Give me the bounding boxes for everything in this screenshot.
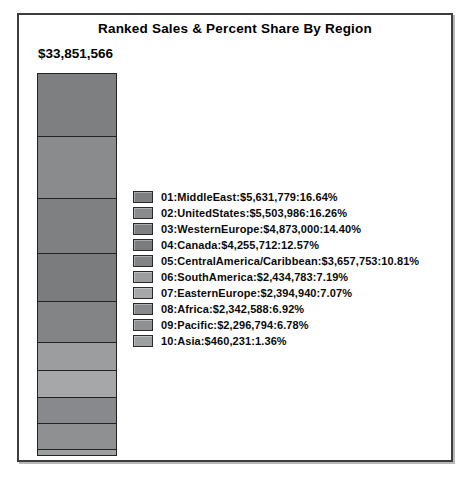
legend-label: 01:MiddleEast:$5,631,779:16.64% [161, 191, 338, 203]
legend-swatch-icon [133, 223, 153, 235]
bar-segment-06 [38, 343, 116, 370]
legend-label: 05:CentralAmerica/Caribbean:$3,657,753:1… [161, 255, 419, 267]
legend-swatch-icon [133, 255, 153, 267]
bar-segment-03 [38, 199, 116, 254]
legend-row-10: 10:Asia:$460,231:1.36% [133, 333, 419, 349]
legend-label: 08:Africa:$2,342,588:6.92% [161, 303, 304, 315]
legend-swatch-icon [133, 239, 153, 251]
legend-row-08: 08:Africa:$2,342,588:6.92% [133, 301, 419, 317]
legend-label: 10:Asia:$460,231:1.36% [161, 335, 287, 347]
bar-segment-09 [38, 424, 116, 450]
bar-segment-10 [38, 450, 116, 455]
legend-swatch-icon [133, 191, 153, 203]
legend-row-06: 06:SouthAmerica:$2,434,783:7.19% [133, 269, 419, 285]
legend-label: 04:Canada:$4,255,712:12.57% [161, 239, 319, 251]
legend-row-09: 09:Pacific:$2,296,794:6.78% [133, 317, 419, 333]
bar-segment-02 [38, 137, 116, 199]
bar-segment-07 [38, 371, 116, 398]
legend-swatch-icon [133, 335, 153, 347]
legend-row-05: 05:CentralAmerica/Caribbean:$3,657,753:1… [133, 253, 419, 269]
legend-swatch-icon [133, 207, 153, 219]
legend-swatch-icon [133, 303, 153, 315]
legend-label: 02:UnitedStates:$5,503,986:16.26% [161, 207, 347, 219]
legend-label: 07:EasternEurope:$2,394,940:7.07% [161, 287, 352, 299]
legend: 01:MiddleEast:$5,631,779:16.64%02:United… [133, 189, 419, 349]
legend-row-04: 04:Canada:$4,255,712:12.57% [133, 237, 419, 253]
legend-label: 06:SouthAmerica:$2,434,783:7.19% [161, 271, 348, 283]
legend-row-01: 01:MiddleEast:$5,631,779:16.64% [133, 189, 419, 205]
legend-swatch-icon [133, 287, 153, 299]
bar-segment-08 [38, 398, 116, 424]
chart-image: Ranked Sales & Percent Share By Region $… [0, 0, 467, 481]
legend-row-02: 02:UnitedStates:$5,503,986:16.26% [133, 205, 419, 221]
stacked-bar [37, 73, 117, 456]
bar-total-label: $33,851,566 [38, 46, 113, 61]
chart-title: Ranked Sales & Percent Share By Region [17, 21, 453, 36]
legend-swatch-icon [133, 271, 153, 283]
bar-segment-01 [38, 74, 116, 137]
legend-swatch-icon [133, 319, 153, 331]
legend-row-03: 03:WesternEurope:$4,873,000:14.40% [133, 221, 419, 237]
bar-segment-04 [38, 254, 116, 302]
bar-segment-05 [38, 302, 116, 343]
legend-label: 09:Pacific:$2,296,794:6.78% [161, 319, 309, 331]
legend-label: 03:WesternEurope:$4,873,000:14.40% [161, 223, 361, 235]
legend-row-07: 07:EasternEurope:$2,394,940:7.07% [133, 285, 419, 301]
